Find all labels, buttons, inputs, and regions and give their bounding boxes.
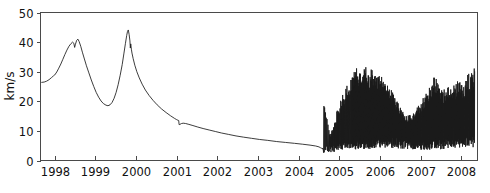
x-tick-label: 2000 — [122, 165, 151, 179]
y-axis-title: km/s — [3, 72, 17, 101]
chart-figure: 01020304050 1998199920002001200220032004… — [0, 0, 490, 193]
y-tick-label: 40 — [19, 36, 34, 50]
x-tick-label: 2005 — [325, 165, 354, 179]
y-tick-label: 10 — [19, 125, 34, 139]
x-tick-label: 2007 — [407, 165, 436, 179]
x-tick-label: 2003 — [244, 165, 273, 179]
y-tick-label: 50 — [19, 7, 34, 21]
x-tick-label: 2006 — [366, 165, 395, 179]
x-tick-label: 2002 — [203, 165, 232, 179]
y-tick-label: 30 — [19, 66, 34, 80]
y-tick-label: 0 — [26, 155, 33, 169]
x-tick-label: 1998 — [41, 165, 70, 179]
y-tick-label: 20 — [19, 95, 34, 109]
x-tick-label: 2004 — [285, 165, 314, 179]
x-tick-label: 2008 — [447, 165, 476, 179]
line-chart-svg: 01020304050 1998199920002001200220032004… — [0, 0, 490, 193]
x-tick-label: 1999 — [81, 165, 110, 179]
x-tick-label: 2001 — [163, 165, 192, 179]
